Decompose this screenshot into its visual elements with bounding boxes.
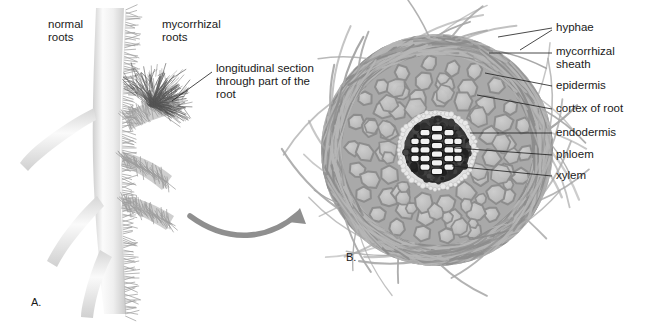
root-branch-upper-left [20,108,96,171]
panel-b-cross-section [282,0,589,296]
panel-tag-b: B. [346,251,356,263]
figure-canvas: normal roots mycorrhizal roots longitudi… [0,0,657,331]
label-normal-roots: normal roots [48,18,83,44]
leader-hyphae-1 [498,28,552,37]
label-mycorrhizal-sheath: mycorrhizal sheath [556,45,615,71]
label-mycorrhizal-roots: mycorrhizal roots [162,18,221,44]
panel-tag-a: A. [31,296,41,308]
label-endodermis: endodermis [556,126,616,139]
root-branch-lower-left [47,196,104,267]
label-cortex-of-root: cortex of root [556,102,623,115]
label-epidermis: epidermis [556,79,606,92]
label-longitudinal-section: longitudinal section through part of the… [216,62,314,102]
label-phloem: phloem [556,148,594,161]
label-xylem: xylem [556,169,586,182]
label-hyphae: hyphae [556,21,594,34]
transition-arrow-head [288,208,306,224]
panel-a-root-system [20,5,306,321]
transition-arrow [190,214,298,235]
leader-hyphae-2 [520,30,552,50]
